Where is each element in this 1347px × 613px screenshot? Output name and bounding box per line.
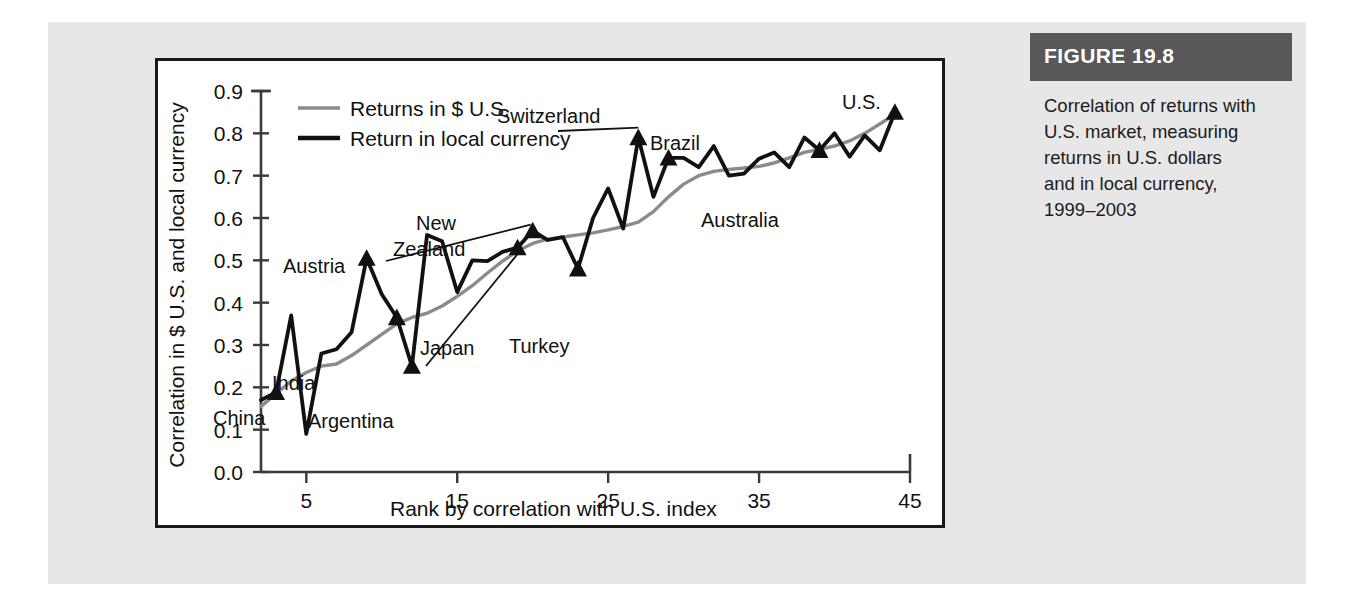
x-tick-label: 5 (300, 489, 312, 512)
annotation-china: China (213, 407, 266, 429)
y-tick-label: 0.0 (214, 461, 243, 484)
y-tick-label: 0.3 (214, 334, 243, 357)
y-tick-label: 0.9 (214, 80, 243, 103)
figure-caption-header: FIGURE 19.8 (1030, 33, 1292, 81)
x-axis-ticks (306, 472, 910, 483)
annotation-us: U.S. (842, 91, 881, 113)
annotation-new-zealand-line2: Zealand (393, 238, 465, 260)
marker-new-zealand (524, 222, 542, 239)
annotation-switzerland: Switzerland (497, 105, 600, 127)
x-axis-title: Rank by correlation with U.S. index (390, 497, 717, 520)
annotation-new-zealand-line1: New (416, 212, 457, 234)
y-tick-label: 0.8 (214, 122, 243, 145)
y-tick-label: 0.2 (214, 376, 243, 399)
caption-line-2: U.S. market, measuring (1044, 119, 1278, 145)
legend-label-returns-usd: Returns in $ U.S. (350, 97, 510, 120)
y-tick-label: 0.4 (214, 292, 244, 315)
x-tick-label: 45 (898, 489, 921, 512)
marker-argentina (403, 357, 421, 374)
caption-line-5: 1999–2003 (1044, 197, 1278, 223)
x-tick-label: 35 (747, 489, 770, 512)
annotation-australia: Australia (701, 209, 780, 231)
caption-line-4: and in local currency, (1044, 171, 1278, 197)
chart-panel: 0.00.10.20.30.40.50.60.70.80.9 515253545… (155, 58, 945, 528)
y-tick-label: 0.5 (214, 249, 243, 272)
annotation-argentina: Argentina (308, 410, 394, 432)
correlation-line-chart: 0.00.10.20.30.40.50.60.70.80.9 515253545… (158, 61, 942, 525)
marker-austria (358, 249, 376, 266)
marker-switzerland (629, 129, 647, 146)
caption-line-3: returns in U.S. dollars (1044, 145, 1278, 171)
caption-line-1: Correlation of returns with (1044, 93, 1278, 119)
marker-turkey (569, 260, 587, 277)
annotation-brazil: Brazil (650, 132, 700, 154)
annotation-turkey: Turkey (509, 335, 569, 357)
annotation-japan: Japan (420, 337, 475, 359)
annotation-india: India (272, 372, 316, 394)
legend-label-returns-local: Return in local currency (350, 127, 571, 150)
figure-caption-body: Correlation of returns with U.S. market,… (1030, 81, 1292, 223)
figure-caption: FIGURE 19.8 Correlation of returns with … (1030, 33, 1292, 223)
y-tick-label: 0.6 (214, 207, 243, 230)
annotation-austria: Austria (283, 255, 346, 277)
marker-u-s- (886, 103, 904, 120)
y-axis-title: Correlation in $ U.S. and local currency (165, 102, 188, 468)
y-tick-label: 0.7 (214, 165, 243, 188)
chart-canvas: 0.00.10.20.30.40.50.60.70.80.9 515253545… (158, 61, 942, 525)
figure-root: 0.00.10.20.30.40.50.60.70.80.9 515253545… (0, 0, 1347, 613)
